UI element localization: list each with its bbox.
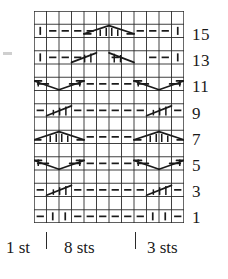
row-label-9: 9: [192, 105, 226, 122]
row-label-11: 11: [192, 78, 226, 95]
caption-segment-8-sts: 8 sts: [64, 239, 95, 256]
row-label-13: 13: [192, 52, 226, 69]
row-label-1: 1: [192, 209, 226, 226]
chart-grid: [34, 11, 184, 223]
scan-artifact: [3, 52, 12, 55]
caption-segment-1-st: 1 st: [6, 239, 30, 256]
caption-tick-right: [135, 232, 136, 249]
caption-segment-3-sts: 3 sts: [147, 239, 178, 256]
row-label-5: 5: [192, 157, 226, 174]
caption-tick-left: [46, 232, 47, 249]
caption-row: 1 st 8 sts 3 sts: [0, 232, 228, 262]
row-label-7: 7: [192, 131, 226, 148]
knitting-chart: 15 13 11 9 7 5 3 1 1 st 8 sts 3 sts: [0, 0, 228, 279]
row-label-15: 15: [192, 26, 226, 43]
row-label-3: 3: [192, 183, 226, 200]
chart-grid-svg: [34, 11, 184, 223]
